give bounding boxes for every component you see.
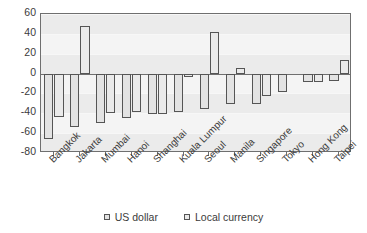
bar-kuala-lumpur-local-currency[interactable]: [184, 74, 193, 77]
bar-hanoi-us-dollar[interactable]: [122, 74, 131, 119]
bar-singapore-local-currency[interactable]: [262, 74, 271, 97]
bar-taipei-local-currency[interactable]: [340, 60, 349, 74]
clipped-title-strip: [8, 0, 358, 6]
plot-area: [40, 13, 351, 152]
bar-hong-kong-us-dollar[interactable]: [303, 74, 312, 82]
bar-series-container: [41, 14, 350, 151]
bar-bangkok-us-dollar[interactable]: [44, 74, 53, 140]
bar-shanghai-local-currency[interactable]: [158, 74, 167, 115]
y-axis-tick-label: 20: [2, 46, 36, 58]
legend-swatch-us-dollar: [104, 214, 110, 220]
bar-chart: 6040200-20-40-60-80 BangkokJakartaMumbai…: [0, 0, 367, 233]
legend-label-local-currency: Local currency: [195, 211, 263, 223]
bar-mumbai-local-currency[interactable]: [106, 74, 115, 114]
y-axis-tick-label: 40: [2, 26, 36, 38]
y-axis-tick-label: -20: [2, 85, 36, 97]
bar-mumbai-us-dollar[interactable]: [96, 74, 105, 124]
bar-manila-us-dollar[interactable]: [226, 74, 235, 105]
bar-singapore-us-dollar[interactable]: [252, 74, 261, 105]
bar-kuala-lumpur-us-dollar[interactable]: [174, 74, 183, 113]
y-axis-tick-label: -60: [2, 125, 36, 137]
legend-swatch-local-currency: [184, 214, 190, 220]
bar-jakarta-local-currency[interactable]: [80, 26, 89, 74]
bar-jakarta-us-dollar[interactable]: [70, 74, 79, 128]
chart-legend: US dollar Local currency: [0, 211, 367, 223]
y-axis-tick-label: -40: [2, 105, 36, 117]
bar-hanoi-local-currency[interactable]: [132, 74, 141, 113]
y-axis-tick-label: 60: [2, 6, 36, 18]
bar-manila-local-currency[interactable]: [236, 68, 245, 74]
bar-taipei-us-dollar[interactable]: [329, 74, 338, 81]
y-axis-tick-label: 0: [2, 66, 36, 78]
bar-hong-kong-local-currency[interactable]: [314, 74, 323, 82]
bar-shanghai-us-dollar[interactable]: [148, 74, 157, 115]
legend-label-us-dollar: US dollar: [115, 211, 158, 223]
bar-bangkok-local-currency[interactable]: [54, 74, 63, 118]
bar-seoul-local-currency[interactable]: [210, 32, 219, 74]
y-axis-tick-label: -80: [2, 145, 36, 157]
bar-tokyo-us-dollar[interactable]: [278, 74, 287, 93]
bar-seoul-us-dollar[interactable]: [200, 74, 209, 110]
legend-item-us-dollar[interactable]: US dollar: [104, 211, 158, 223]
legend-item-local-currency[interactable]: Local currency: [184, 211, 263, 223]
